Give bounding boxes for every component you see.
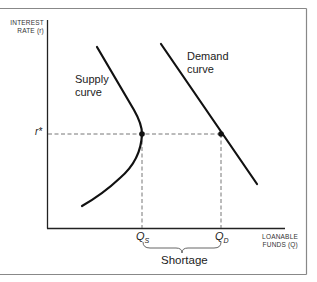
y-axis-label: INTEREST RATE (r)	[4, 19, 44, 35]
shortage-brace	[143, 242, 221, 253]
demand-point	[218, 131, 224, 137]
shortage-label: Shortage	[161, 254, 208, 266]
qd-label: QD	[215, 230, 229, 244]
qs-label: QS	[136, 230, 149, 244]
supply-curve-label: Supply curve	[75, 73, 109, 99]
supply-curve	[82, 47, 142, 206]
x-axis-label: LOANABLE FUNDS (Q)	[252, 233, 298, 249]
r-star-label: r*	[35, 126, 42, 137]
demand-curve-label: Demand curve	[187, 50, 229, 76]
supply-point	[139, 131, 145, 137]
